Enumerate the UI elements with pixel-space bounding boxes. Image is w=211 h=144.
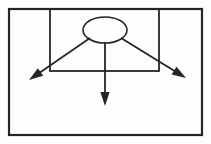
figure-container	[0, 0, 211, 144]
line-diagram	[0, 0, 211, 144]
